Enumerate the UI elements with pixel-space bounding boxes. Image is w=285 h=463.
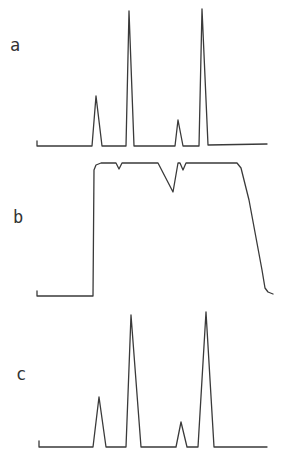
trace-a	[37, 9, 267, 146]
traces-canvas	[0, 0, 285, 463]
chromatogram-figure: a b c	[0, 0, 285, 463]
trace-b	[37, 163, 273, 296]
trace-c	[39, 312, 267, 447]
